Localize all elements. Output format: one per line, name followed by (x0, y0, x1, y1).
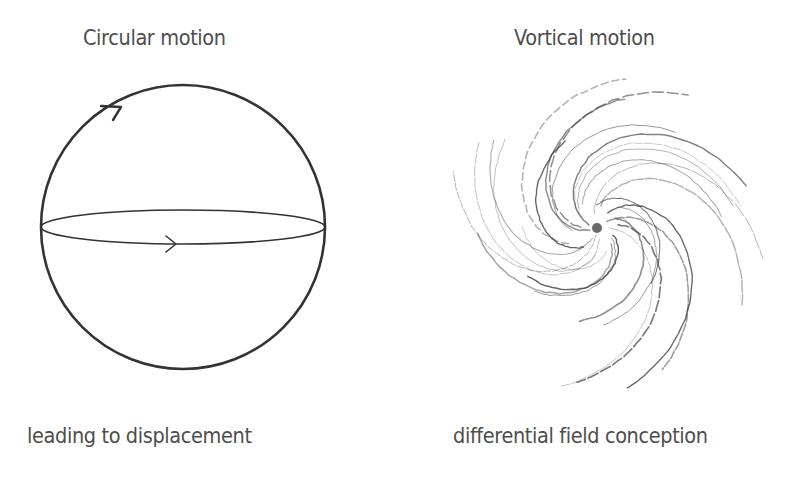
vortex-arm-stroke (535, 238, 616, 296)
vortex-arm-stroke (608, 205, 692, 388)
vortex-figure (0, 0, 811, 480)
vortex-arm-stroke (607, 217, 689, 370)
vortex-arm-stroke (453, 171, 596, 272)
vortex-arm-stroke (582, 159, 721, 216)
vortex-arm-stroke (594, 163, 763, 259)
vortex-arm-stroke (490, 140, 592, 254)
vortex-arm-stroke (494, 140, 597, 272)
vortex-arm-stroke (528, 235, 619, 289)
vortical-motion-caption: differential field conception (453, 424, 708, 448)
vortex-arms (453, 79, 763, 388)
vortex-core (592, 223, 602, 233)
vortex-arm-stroke (478, 233, 613, 294)
